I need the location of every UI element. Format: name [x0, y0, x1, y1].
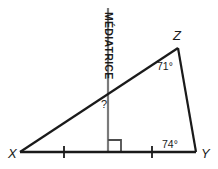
vertex-label-x: X [7, 146, 18, 161]
angle-label-y: 74° [162, 138, 178, 150]
vertex-label-y: Y [201, 146, 211, 161]
bisector-caption: MÉDIATRICE [103, 12, 115, 80]
segment-zy [178, 48, 196, 152]
geometry-figure: X Y Z 71° 74° ? MÉDIATRICE [0, 0, 218, 169]
segment-xz [20, 48, 178, 152]
right-angle-marker [108, 140, 121, 152]
vertex-label-z: Z [172, 28, 182, 43]
angle-label-unknown: ? [101, 98, 107, 110]
angle-label-z: 71° [157, 60, 173, 72]
triangle-diagram-svg: X Y Z 71° 74° ? MÉDIATRICE [0, 0, 218, 169]
